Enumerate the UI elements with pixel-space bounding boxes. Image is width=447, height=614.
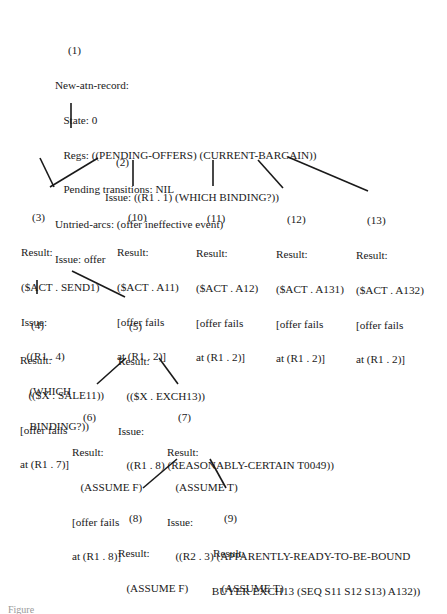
node-13: (13) Result: ($ACT . A132) [offer fails …	[356, 192, 424, 378]
node-id: (9)	[213, 513, 388, 525]
node-id: (6)	[72, 412, 142, 424]
edge-2-3	[40, 158, 54, 187]
node-id: (10)	[117, 212, 179, 224]
node-9: (9) Result: (ASSUME T) [offer arc succee…	[213, 490, 388, 614]
node-id: (12)	[276, 214, 344, 226]
node-id: (2)	[105, 157, 279, 169]
node-id: (8)	[118, 513, 188, 525]
node-id: (13)	[356, 215, 424, 227]
node-id: (11)	[196, 213, 258, 225]
node-id: (5)	[118, 321, 334, 333]
figure-caption: Figure	[8, 604, 34, 614]
node-id: (3)	[21, 212, 99, 224]
node-id: (1)	[55, 45, 317, 57]
node-id: (4)	[20, 320, 104, 332]
node-8: (8) Result: (ASSUME F) [offer fails at (…	[118, 490, 188, 614]
node-id: (7)	[167, 412, 420, 424]
